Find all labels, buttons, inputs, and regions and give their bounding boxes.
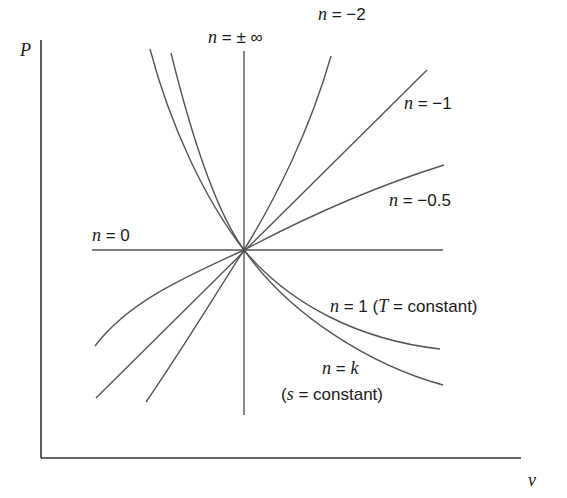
label-n-inf: n = ± ∞: [208, 27, 263, 47]
curve-n-neg1: [96, 70, 427, 398]
label-s-constant: (s = constant): [281, 384, 383, 404]
label-n-neg2: n = −2: [318, 4, 366, 24]
label-n-neg05: n = −0.5: [389, 190, 451, 210]
polytropic-diagram: P v n = ± ∞ n = −2 n = −1 n = −0.5 n = 0…: [0, 0, 567, 498]
label-n-neg1: n = −1: [404, 93, 452, 113]
curve-n-k: [150, 49, 443, 385]
process-curves: [92, 49, 444, 415]
label-n-0: n = 0: [92, 225, 130, 245]
label-n-k: n = k: [322, 358, 359, 378]
y-axis-label: P: [19, 40, 31, 60]
curve-n-neg2: [146, 56, 331, 402]
label-n-1: n = 1 (T = constant): [330, 296, 478, 316]
x-axis-label: v: [528, 470, 536, 490]
